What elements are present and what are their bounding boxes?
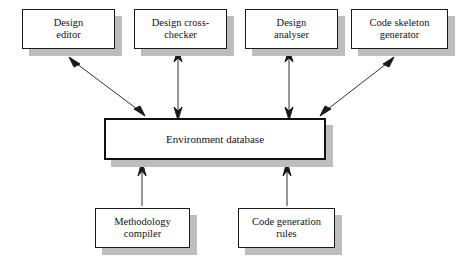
node-code-skeleton-generator-label: Code skeleton generator xyxy=(368,17,432,41)
node-code-generation-rules-label: Code generation rules xyxy=(250,216,323,240)
node-environment-database-label: Environment database xyxy=(164,133,266,145)
node-design-editor-label: Design editor xyxy=(52,17,86,41)
diagram-canvas: Design editor Design cross- checker Desi… xyxy=(0,0,471,262)
edge-design-cross-checker xyxy=(174,49,182,120)
node-code-generation-rules[interactable]: Code generation rules xyxy=(238,208,335,248)
edge-design-editor xyxy=(69,57,145,116)
node-methodology-compiler-label: Methodology compiler xyxy=(112,216,173,240)
node-methodology-compiler[interactable]: Methodology compiler xyxy=(95,208,190,248)
edge-code-generation-rules xyxy=(283,161,291,206)
node-design-analyser[interactable]: Design analyser xyxy=(245,9,338,49)
node-design-editor[interactable]: Design editor xyxy=(22,9,115,49)
node-environment-database[interactable]: Environment database xyxy=(104,118,326,160)
node-design-analyser-label: Design analyser xyxy=(272,17,311,41)
node-code-skeleton-generator[interactable]: Code skeleton generator xyxy=(351,9,448,49)
edge-code-skeleton-generator xyxy=(320,57,394,116)
node-design-cross-checker-label: Design cross- checker xyxy=(150,17,211,41)
node-design-cross-checker[interactable]: Design cross- checker xyxy=(134,9,227,49)
edge-methodology-compiler xyxy=(138,161,146,206)
edge-design-analyser xyxy=(285,49,293,120)
